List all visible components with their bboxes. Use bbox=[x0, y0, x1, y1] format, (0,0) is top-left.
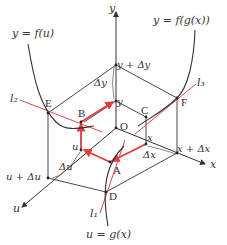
tick-label-u-plus-du: u + Δu bbox=[6, 172, 41, 182]
tangent-label-l3: l₃ bbox=[197, 77, 205, 88]
tick-label-u: u bbox=[72, 142, 78, 152]
y-axis-label: y bbox=[109, 3, 115, 14]
tick-label-dx: Δx bbox=[143, 150, 156, 160]
curve-label-f-g-x: y = f(g(x)) bbox=[153, 15, 210, 26]
point-label-E: E bbox=[45, 98, 52, 109]
point-label-O: O bbox=[120, 121, 128, 132]
tick-label-y-plus-dy: y + Δy bbox=[117, 60, 150, 70]
point-label-F: F bbox=[181, 97, 187, 108]
tick-label-x: x bbox=[147, 133, 153, 143]
point-label-B: B bbox=[78, 108, 85, 119]
u-axis-label: u bbox=[13, 203, 20, 214]
curve-g-of-x bbox=[105, 146, 124, 226]
point-label-A: A bbox=[113, 165, 121, 176]
chain-path bbox=[81, 102, 146, 162]
curve-label-f-u: y = f(u) bbox=[12, 28, 54, 39]
tangent-label-l1: l₁ bbox=[90, 208, 98, 219]
x-axis-label: x bbox=[210, 159, 216, 170]
tick-label-du: Δu bbox=[59, 162, 73, 172]
tick-label-x-plus-dx: x + Δx bbox=[177, 144, 210, 154]
tangent-l1 bbox=[100, 140, 125, 213]
axes bbox=[22, 12, 205, 207]
tick-label-dy: Δy bbox=[94, 78, 107, 88]
curve-label-g-x: u = g(x) bbox=[86, 229, 131, 240]
point-label-D: D bbox=[109, 191, 117, 202]
tangent-label-l2: l₂ bbox=[10, 93, 18, 104]
tick-label-y: y bbox=[117, 97, 123, 107]
point-label-C: C bbox=[141, 105, 148, 116]
